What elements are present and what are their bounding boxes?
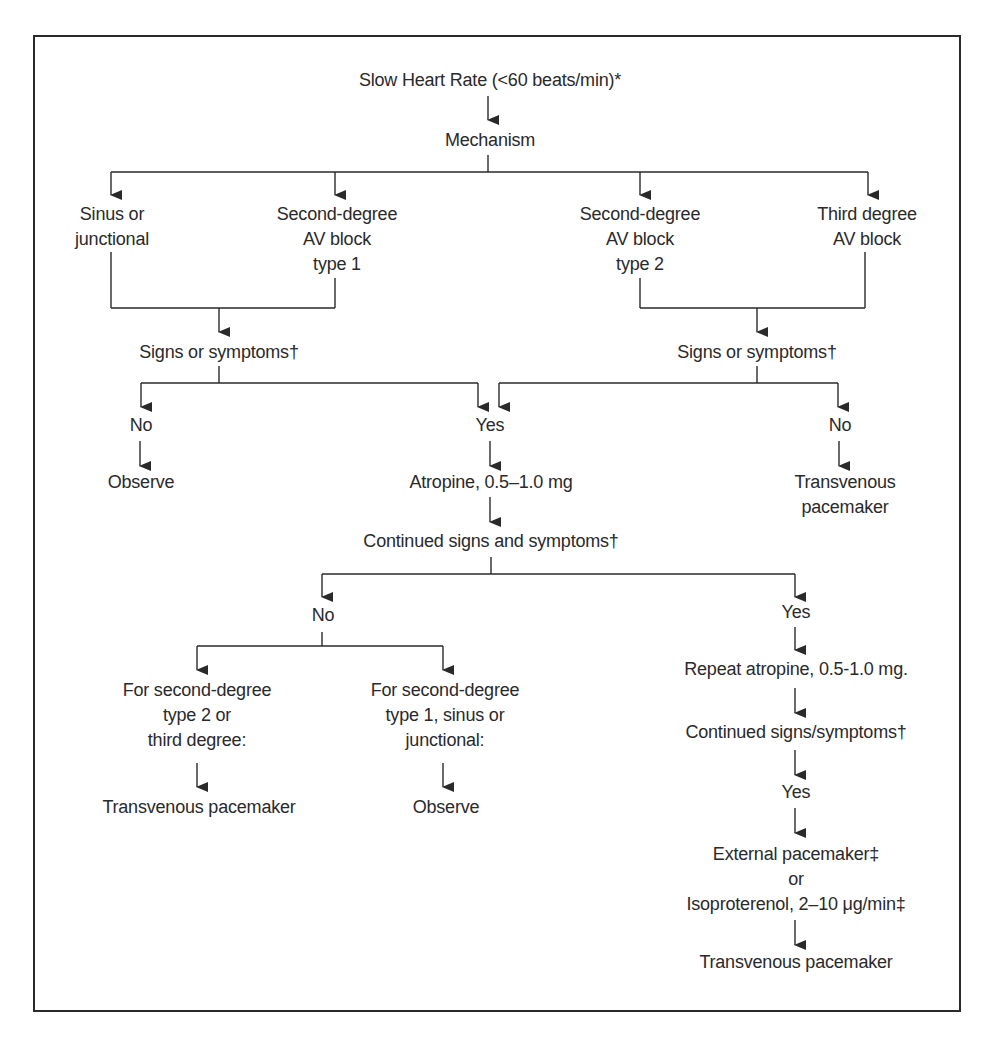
node-label: Yes (476, 413, 505, 438)
node-no-continued: No (312, 603, 335, 628)
node-label: Yes (782, 780, 811, 805)
node-continued-signs: Continued signs and symptoms† (363, 529, 618, 554)
node-transvenous-pacemaker-2: Transvenous pacemaker (102, 795, 295, 820)
node-label: junctional: (371, 728, 520, 753)
node-transvenous-pacemaker-3: Transvenous pacemaker (699, 950, 892, 975)
node-label: type 2 or (123, 703, 272, 728)
node-label: External pacemaker‡ (686, 842, 905, 867)
node-label: Slow Heart Rate (<60 beats/min)* (359, 68, 621, 93)
node-label: Mechanism (445, 128, 535, 153)
node-label: type 2 (580, 252, 701, 277)
node-label: Third degree (817, 202, 917, 227)
node-label: Sinus or (75, 202, 149, 227)
node-label: No (829, 413, 852, 438)
node-yes-final: Yes (782, 780, 811, 805)
node-third-degree: Third degree AV block (817, 202, 917, 252)
node-yes-continued: Yes (782, 600, 811, 625)
node-observe-2: Observe (413, 795, 480, 820)
node-signs-right: Signs or symptoms† (677, 340, 836, 365)
node-no-right: No (829, 413, 852, 438)
node-transvenous-pacemaker-1: Transvenous pacemaker (794, 470, 895, 520)
node-label: third degree: (123, 728, 272, 753)
node-repeat-atropine: Repeat atropine, 0.5-1.0 mg. (684, 657, 908, 682)
node-label: AV block (580, 227, 701, 252)
node-label: Signs or symptoms† (139, 340, 298, 365)
node-label: Yes (782, 600, 811, 625)
node-no-left: No (130, 413, 153, 438)
node-label: Isoproterenol, 2–10 μg/min‡ (686, 892, 905, 917)
node-label: For second-degree (371, 678, 520, 703)
node-label: Observe (108, 470, 175, 495)
node-observe-1: Observe (108, 470, 175, 495)
node-second-degree-type2: Second-degree AV block type 2 (580, 202, 701, 277)
node-label: For second-degree (123, 678, 272, 703)
node-label: Transvenous pacemaker (699, 950, 892, 975)
node-label: No (130, 413, 153, 438)
node-atropine: Atropine, 0.5–1.0 mg (409, 470, 572, 495)
node-external-pacemaker-or-isoproterenol: External pacemaker‡ or Isoproterenol, 2–… (686, 842, 905, 917)
node-label: Observe (413, 795, 480, 820)
node-label: Atropine, 0.5–1.0 mg (409, 470, 572, 495)
node-label: Repeat atropine, 0.5-1.0 mg. (684, 657, 908, 682)
node-label: junctional (75, 227, 149, 252)
node-label: or (686, 867, 905, 892)
node-label: AV block (277, 227, 398, 252)
node-yes-center: Yes (476, 413, 505, 438)
node-label: Transvenous pacemaker (102, 795, 295, 820)
node-label: Signs or symptoms† (677, 340, 836, 365)
node-slow-heart-rate: Slow Heart Rate (<60 beats/min)* (359, 68, 621, 93)
node-for-type2-or-third: For second-degree type 2 or third degree… (123, 678, 272, 753)
node-mechanism: Mechanism (445, 128, 535, 153)
node-label: Second-degree (580, 202, 701, 227)
node-label: No (312, 603, 335, 628)
node-label: Continued signs/symptoms† (685, 720, 906, 745)
node-label: Second-degree (277, 202, 398, 227)
node-label: type 1, sinus or (371, 703, 520, 728)
node-continued-signs-2: Continued signs/symptoms† (685, 720, 906, 745)
node-label: AV block (817, 227, 917, 252)
node-sinus-or-junctional: Sinus or junctional (75, 202, 149, 252)
node-for-type1-sinus: For second-degree type 1, sinus or junct… (371, 678, 520, 753)
node-label: pacemaker (794, 495, 895, 520)
node-label: Continued signs and symptoms† (363, 529, 618, 554)
node-label: type 1 (277, 252, 398, 277)
node-signs-left: Signs or symptoms† (139, 340, 298, 365)
node-label: Transvenous (794, 470, 895, 495)
node-second-degree-type1: Second-degree AV block type 1 (277, 202, 398, 277)
